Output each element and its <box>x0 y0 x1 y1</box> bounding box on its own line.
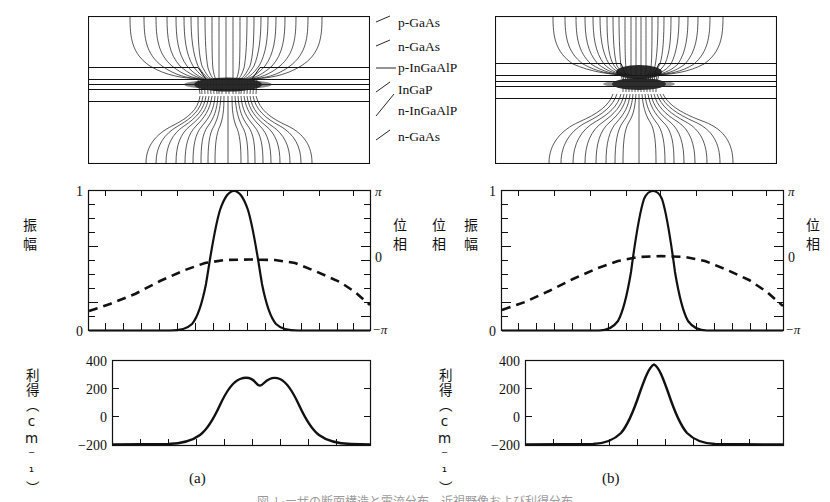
panel-caption-a: (a) <box>189 470 206 487</box>
gain-tick-neg200-b: −200 <box>491 438 520 453</box>
panel-caption-b: (b) <box>602 470 620 487</box>
device-cross-section-a <box>88 16 370 164</box>
device-diagram-svg-b <box>495 16 777 164</box>
amp-tick-0: 0 <box>76 324 83 339</box>
gain-axis-label-b: 利得（cm⁻¹） <box>437 368 451 496</box>
gain-tick-400: 400 <box>86 354 107 369</box>
amp-tick-1-b: 1 <box>489 184 496 199</box>
phase-axis-label-b-left: 位相 <box>431 218 445 256</box>
gain-tick-neg200: −200 <box>78 438 107 453</box>
phase-curve-a <box>89 260 370 312</box>
gain-label-text: 利得（cm⁻¹） <box>24 368 40 496</box>
panel-b: 位相 振幅 位相 1 0 π 0 −π <box>415 0 830 502</box>
phase-tick-0: 0 <box>375 250 382 265</box>
amp-tick-1: 1 <box>76 184 83 199</box>
figure-bottom-caption: 図 レーザの断面構造と電流分布，近視野像および利得分布 <box>0 492 830 502</box>
amplitude-axis-label-a: 振幅 <box>22 218 36 256</box>
panel-a: p-GaAs n-GaAs p-InGaAlP InGaP n-InGaAlP … <box>0 0 415 502</box>
amp-tick-0-b: 0 <box>489 324 496 339</box>
amplitude-curve-b <box>502 191 783 331</box>
gain-curve-b <box>526 365 783 445</box>
gain-tick-0: 0 <box>100 410 107 425</box>
device-cross-section-b <box>495 16 777 164</box>
device-diagram-svg-a <box>88 16 370 164</box>
near-field-plot-b: 1 0 π 0 −π <box>463 184 808 340</box>
phase-curve-b <box>502 256 783 310</box>
gain-plot-a: 400 200 0 −200 <box>50 352 395 462</box>
gain-curve-a <box>113 378 370 445</box>
near-field-plot-a: 1 0 π 0 −π <box>50 184 395 340</box>
gain-tick-400-b: 400 <box>499 354 520 369</box>
gain-tick-200: 200 <box>86 382 107 397</box>
phase-tick-0-b: 0 <box>788 250 795 265</box>
phase-tick-pi: π <box>375 184 382 199</box>
gain-label-text-b: 利得（cm⁻¹） <box>437 368 453 496</box>
gain-tick-0-b: 0 <box>513 410 520 425</box>
gain-plot-b: 400 200 0 −200 <box>463 352 808 462</box>
phase-tick-neg-pi-b: −π <box>785 322 801 337</box>
gain-axis-label-a: 利得（cm⁻¹） <box>24 368 38 496</box>
phase-tick-pi-b: π <box>788 184 795 199</box>
phase-tick-neg-pi: −π <box>372 322 388 337</box>
gain-tick-200-b: 200 <box>499 382 520 397</box>
